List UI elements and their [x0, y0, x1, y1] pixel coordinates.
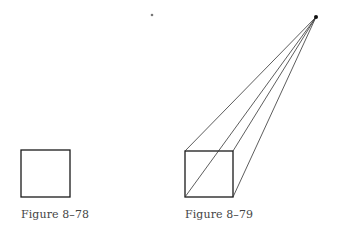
figure-8-78-caption: Figure 8–78	[21, 208, 89, 221]
vanishing-point	[314, 15, 318, 19]
figure-page: Figure 8–78 Figure 8–79	[0, 0, 337, 231]
figure-8-79-caption: Figure 8–79	[185, 208, 253, 221]
figure-8-79-square	[185, 151, 233, 197]
diagram-canvas	[0, 0, 337, 231]
stray-dot	[151, 14, 154, 17]
projection-lines	[185, 17, 316, 197]
figure-8-78-square	[21, 150, 70, 197]
